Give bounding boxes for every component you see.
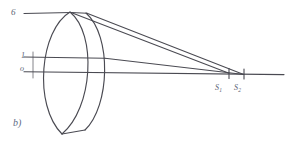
- ray-bundle: [24, 13, 284, 75]
- optical-axis-line: [24, 72, 284, 75]
- optical-axis-label-o: o: [20, 65, 24, 73]
- lens-front-surface-arc: [44, 12, 70, 134]
- ray-height-label-1: 1: [21, 52, 25, 60]
- focus-label-s2-subscript: 2: [238, 87, 241, 93]
- marginal-refracted-ray: [71, 13, 229, 74]
- panel-label-b: b): [13, 118, 21, 128]
- focus-label-s2: S2: [234, 84, 241, 92]
- marginal-incident-ray: [24, 13, 71, 14]
- focus-label-s1: S1: [215, 84, 222, 92]
- ray-diagram-canvas: [0, 0, 286, 147]
- ray-height-label-6: 6: [11, 8, 16, 17]
- paraxial-incident-ray: [24, 57, 105, 58]
- optics-ray-diagram-figure: 6 1 o S1 S2 b): [0, 0, 286, 147]
- focus-label-s1-subscript: 1: [219, 87, 222, 93]
